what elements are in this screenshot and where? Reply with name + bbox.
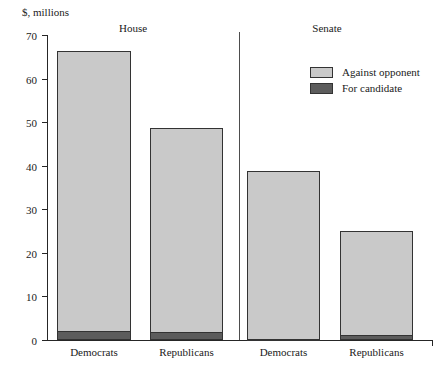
bar-senate-republicans	[340, 231, 413, 340]
bar-house-republicans	[150, 128, 223, 340]
y-tick-label-20: 20	[26, 248, 37, 259]
bar-house-democrats	[57, 51, 131, 340]
x-axis-label-house-republicans: Republicans	[159, 346, 213, 358]
y-tick-40: 40	[42, 166, 47, 167]
y-tick-label-0: 0	[32, 335, 38, 346]
bar-segment-against-opponent	[150, 128, 223, 333]
y-tick-label-70: 70	[26, 30, 37, 41]
y-tick-label-40: 40	[26, 161, 37, 172]
group-title-house: House	[119, 22, 147, 34]
bar-segment-against-opponent	[57, 51, 131, 332]
y-tick-30: 30	[42, 209, 47, 210]
y-tick-10: 10	[42, 296, 47, 297]
y-tick-label-10: 10	[26, 291, 37, 302]
y-tick-label-60: 60	[26, 74, 37, 85]
y-tick-label-30: 30	[26, 204, 37, 215]
bar-segment-against-opponent	[340, 231, 413, 336]
y-tick-60: 60	[42, 79, 47, 80]
legend-label-for-candidate: For candidate	[342, 82, 402, 94]
chart-legend: Against opponent For candidate	[310, 64, 420, 96]
bar-segment-for-candidate	[247, 339, 320, 341]
group-divider	[239, 32, 240, 340]
x-axis-label-senate-republicans: Republicans	[349, 346, 403, 358]
y-tick-0: 0	[42, 340, 47, 341]
y-tick-50: 50	[42, 122, 47, 123]
x-axis-label-senate-democrats: Democrats	[260, 346, 308, 358]
campaign-spending-bar-chart: $, millions 010203040506070 HouseSenate …	[0, 0, 446, 381]
legend-swatch-for-candidate	[310, 83, 333, 94]
y-axis-line	[47, 35, 48, 340]
bar-segment-for-candidate	[340, 335, 413, 340]
bar-segment-for-candidate	[57, 331, 131, 340]
x-axis-label-house-democrats: Democrats	[70, 346, 118, 358]
legend-item-for-candidate: For candidate	[310, 80, 420, 96]
x-axis-end-tick	[432, 340, 433, 346]
legend-swatch-against-opponent	[310, 67, 333, 78]
group-title-senate: Senate	[312, 22, 341, 34]
legend-label-against-opponent: Against opponent	[342, 66, 420, 78]
y-axis-unit-label: $, millions	[22, 6, 69, 19]
legend-item-against-opponent: Against opponent	[310, 64, 420, 80]
x-axis-line	[47, 340, 433, 341]
bar-segment-for-candidate	[150, 332, 223, 340]
bar-segment-against-opponent	[247, 171, 320, 340]
bar-senate-democrats	[247, 171, 320, 340]
y-tick-20: 20	[42, 253, 47, 254]
y-tick-label-50: 50	[26, 117, 37, 128]
y-tick-70: 70	[42, 35, 47, 36]
